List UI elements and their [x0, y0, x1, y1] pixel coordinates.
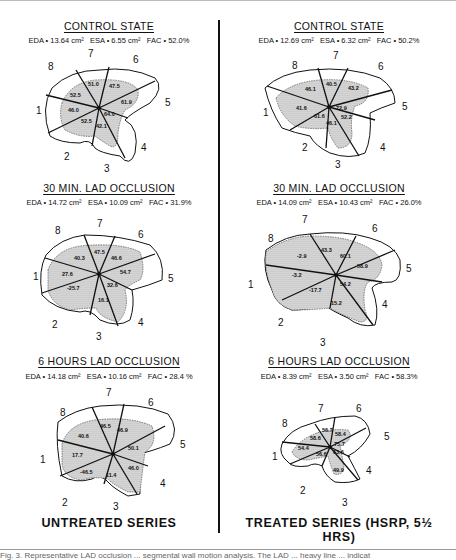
- segment-4-label: 4: [141, 142, 147, 153]
- segment-7-value: 56.7: [322, 427, 333, 433]
- segment-2-value: 52.5: [81, 118, 92, 124]
- segment-5-value: 72.9: [336, 105, 347, 111]
- segment-5-value: 50.1: [128, 445, 139, 451]
- segment-5-value: 75.7: [334, 441, 345, 447]
- series-label: UNTREATED SERIES: [0, 516, 218, 530]
- segment-6-value: 58.4: [335, 431, 347, 437]
- segment-3-label: 3: [320, 337, 326, 348]
- panel-stats: EDA • 14.09 cm² ESA • 10.43 cm² FAC • 26…: [230, 198, 448, 207]
- segment-5-label: 5: [165, 97, 171, 108]
- segment-6-value: 60.1: [340, 253, 351, 259]
- eda-value: EDA • 14.18 cm²: [25, 372, 80, 381]
- segment-2-label: 2: [278, 317, 284, 328]
- segment-8-value: 40.3: [74, 255, 85, 261]
- fac-value: FAC • 28.4 %: [148, 372, 193, 381]
- segment-1-value: 54.4: [298, 445, 310, 451]
- panel-stats: EDA • 8.39 cm² ESA • 3.50 cm² FAC • 58.3…: [230, 372, 448, 381]
- segment-3-value: 46.1: [326, 120, 337, 126]
- segment-4-value: 54.2: [340, 281, 351, 287]
- segment-4-value: 46.0: [128, 465, 139, 471]
- segment-8-label: 8: [55, 225, 61, 236]
- segment-5-value: 61.9: [121, 99, 132, 105]
- segment-6-value: 46.9: [117, 427, 128, 433]
- panel-title: 30 MIN. LAD OCCLUSION: [0, 182, 218, 194]
- segment-2-value: -46.5: [80, 469, 93, 475]
- series-label: TREATED SERIES (HSRP, 5½ HRS): [230, 516, 448, 544]
- segment-7-label: 7: [88, 48, 94, 59]
- segment-8-value: 40.6: [78, 433, 89, 439]
- segment-4-value: 64.0: [104, 111, 115, 117]
- segment-5-value: 58.9: [357, 263, 368, 269]
- segment-6-label: 6: [138, 229, 144, 240]
- segment-2-value: -17.7: [309, 287, 322, 293]
- segment-1-label: 1: [33, 271, 39, 282]
- segment-3-label: 3: [342, 497, 348, 508]
- segment-2-label: 2: [64, 151, 70, 162]
- eda-value: EDA • 13.64 cm²: [29, 36, 84, 45]
- esa-value: ESA • 10.43 cm²: [318, 198, 373, 207]
- segment-3-value: 49.9: [333, 467, 344, 473]
- segment-4-label: 4: [160, 478, 166, 489]
- panel-title: 30 MIN. LAD OCCLUSION: [230, 182, 448, 194]
- lv-segment-diagram: 1 2 3 4 5 6 7 8 52.5 51.0 47.5 61.9 64.0…: [0, 48, 218, 188]
- lv-segment-diagram: 1 2 3 4 5 6 7 8 -2.9 43.3 60.1 58.9 54.2…: [230, 210, 448, 350]
- segment-6-label: 6: [378, 61, 384, 72]
- segment-3-label: 3: [104, 163, 110, 174]
- segment-4-label: 4: [138, 317, 144, 328]
- eda-value: EDA • 14.72 cm²: [26, 198, 81, 207]
- segment-2-value: 61.6: [314, 113, 325, 119]
- eda-value: EDA • 12.69 cm²: [259, 36, 314, 45]
- segment-7-label: 7: [333, 50, 339, 61]
- segment-4-label: 4: [380, 142, 386, 153]
- segment-1-value: 27.6: [62, 271, 73, 277]
- segment-7-value: 43.3: [321, 247, 332, 253]
- segment-6-label: 6: [133, 54, 139, 65]
- figure-caption-partial: Fig. 3. Representative LAD occlusion ...…: [0, 549, 456, 560]
- segment-8-value: 58.6: [310, 435, 321, 441]
- segment-8-label: 8: [292, 60, 298, 71]
- fac-value: FAC • 50.2%: [377, 36, 420, 45]
- lv-segment-diagram: 1 2 3 4 5 6 7 8 40.6 46.5 46.9 50.1 46.0…: [0, 384, 218, 524]
- segment-7-value: 40.5: [326, 81, 337, 87]
- lv-segment-diagram: 1 2 3 4 5 6 7 8 58.6 56.7 58.4 75.7 63.6…: [230, 384, 448, 524]
- segment-3-label: 3: [96, 331, 102, 342]
- segment-2-label: 2: [62, 497, 68, 508]
- segment-8-value: 46.1: [305, 86, 316, 92]
- panel-title: CONTROL STATE: [0, 20, 218, 32]
- segment-6-label: 6: [372, 223, 378, 234]
- segment-8-label: 8: [282, 418, 288, 429]
- segment-5-label: 5: [406, 263, 412, 274]
- segment-3-value: 15.2: [331, 300, 342, 306]
- esa-value: ESA • 10.09 cm²: [88, 198, 143, 207]
- segment-7-value: 47.5: [94, 249, 105, 255]
- segment-1-label: 1: [263, 107, 269, 118]
- segment-4-value: 63.6: [333, 449, 344, 455]
- segment-2-label: 2: [302, 142, 308, 153]
- segment-1-value: -3.2: [292, 272, 301, 278]
- segment-8-label: 8: [268, 233, 274, 244]
- segment-5-label: 5: [402, 101, 408, 112]
- fac-value: FAC • 52.0%: [147, 36, 190, 45]
- fac-value: FAC • 58.3%: [375, 372, 418, 381]
- segment-8-value: -2.9: [297, 253, 306, 259]
- segment-3-label: 3: [335, 159, 341, 170]
- segment-4-label: 4: [366, 465, 372, 476]
- segment-6-value: 47.5: [109, 83, 120, 89]
- lv-segment-diagram: 1 2 3 4 5 6 7 8 46.1 40.5 43.2 72.9 52.2…: [230, 48, 448, 188]
- esa-value: ESA • 10.16 cm²: [87, 372, 142, 381]
- segment-4-value: 32.6: [107, 282, 118, 288]
- segment-8-value: 52.5: [70, 92, 81, 98]
- segment-3-value: 11.4: [106, 472, 117, 478]
- segment-7-label: 7: [97, 218, 103, 229]
- segment-8-label: 8: [48, 61, 54, 72]
- panel-title: 6 HOURS LAD OCCLUSION: [230, 355, 448, 367]
- segment-8-label: 8: [60, 407, 66, 418]
- segment-3-value: 16.1: [98, 297, 109, 303]
- segment-1-label: 1: [248, 279, 254, 290]
- esa-value: ESA • 6.55 cm²: [90, 36, 141, 45]
- segment-5-label: 5: [168, 273, 174, 284]
- eda-value: EDA • 8.39 cm²: [261, 372, 312, 381]
- segment-1-value: 46.0: [68, 107, 79, 113]
- segment-4-label: 4: [382, 299, 388, 310]
- segment-1-value: 41.6: [296, 105, 307, 111]
